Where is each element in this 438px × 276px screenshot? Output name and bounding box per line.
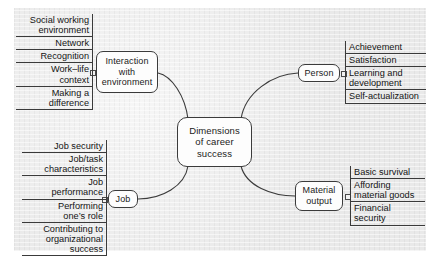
hub-label: Dimensions of career success xyxy=(189,125,240,159)
connector-interaction xyxy=(158,73,188,119)
connector-material xyxy=(241,166,295,196)
leaf-header-job-security[interactable]: Job security xyxy=(22,140,106,153)
leaf-item-network[interactable]: Network xyxy=(16,37,92,50)
leaf-item-financial-security[interactable]: Financial security xyxy=(351,202,425,225)
branch-node-person[interactable]: Person xyxy=(298,64,340,82)
leaf-item-job-task-characteristics[interactable]: Job/task characteristics xyxy=(22,153,106,176)
leaf-list-social-working-environment: Social working environment Network Recog… xyxy=(16,14,93,110)
leaf-list-job: Job security Job/task characteristics Jo… xyxy=(22,140,107,256)
diagram-canvas: Dimensions of career success Interaction… xyxy=(0,0,438,276)
leaf-item-performing-ones-role[interactable]: Performing one’s role xyxy=(22,200,106,223)
branch-node-job-label: Job xyxy=(116,194,131,205)
hub-node[interactable]: Dimensions of career success xyxy=(177,117,252,167)
connector-person xyxy=(241,73,298,119)
leaf-header-social-working-environment[interactable]: Social working environment xyxy=(16,14,92,37)
leaf-list-person: Achievement Satisfaction Learning and de… xyxy=(345,41,426,104)
leaf-item-learning-and-development[interactable]: Learning and development xyxy=(346,67,426,90)
leaf-item-job-performance[interactable]: Job performance xyxy=(22,176,106,199)
leaf-item-work-life-context[interactable]: Work–life context xyxy=(16,63,92,86)
branch-node-job[interactable]: Job xyxy=(108,190,138,208)
leaf-item-making-a-difference[interactable]: Making a difference xyxy=(16,87,92,110)
leaf-item-satisfaction[interactable]: Satisfaction xyxy=(346,54,426,67)
leaf-header-achievement[interactable]: Achievement xyxy=(346,41,426,54)
leaf-list-material-output: Basic survival Affording material goods … xyxy=(350,166,425,226)
branch-node-material-output-label: Material output xyxy=(303,185,336,206)
branch-node-interaction[interactable]: Interaction with environment xyxy=(96,51,158,93)
leaf-item-recognition[interactable]: Recognition xyxy=(16,50,92,63)
branch-node-material-output[interactable]: Material output xyxy=(295,181,343,211)
leaf-item-affording-material-goods[interactable]: Affording material goods xyxy=(351,179,425,202)
leaf-item-self-actualization[interactable]: Self-actualization xyxy=(346,90,426,103)
branch-node-person-label: Person xyxy=(304,68,333,79)
branch-node-interaction-label: Interaction with environment xyxy=(102,56,153,88)
connector-job xyxy=(138,166,188,199)
leaf-header-basic-survival[interactable]: Basic survival xyxy=(351,166,425,179)
leaf-item-contributing-to-organizational-success[interactable]: Contributing to organizational success xyxy=(22,223,106,256)
